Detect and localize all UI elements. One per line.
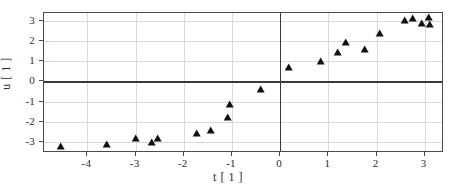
y-axis-tick-label: 2 xyxy=(13,34,35,46)
data-point-marker xyxy=(193,129,201,136)
x-axis-tick-label: -2 xyxy=(171,157,195,169)
y-axis-tick-label: 3 xyxy=(13,14,35,26)
data-point-marker xyxy=(225,100,233,107)
data-point-marker xyxy=(207,126,215,133)
x-axis-tick-label: 3 xyxy=(412,157,436,169)
data-point-marker xyxy=(285,63,293,70)
x-axis-tick xyxy=(279,152,280,156)
x-axis-tick-label: 0 xyxy=(267,157,291,169)
x-axis-tick xyxy=(231,152,232,156)
data-point-marker xyxy=(408,14,416,21)
data-point-marker xyxy=(131,135,139,142)
data-point-marker xyxy=(257,86,265,93)
x-axis-tick-label: -3 xyxy=(123,157,147,169)
gridline-horizontal xyxy=(44,41,442,42)
data-point-marker xyxy=(376,29,384,36)
gridline-horizontal xyxy=(44,61,442,62)
y-axis-tick xyxy=(39,80,43,81)
y-axis-tick-label: -1 xyxy=(13,95,35,107)
y-axis-tick-label: 1 xyxy=(13,54,35,66)
data-point-marker xyxy=(317,58,325,65)
x-axis-tick-label: 2 xyxy=(364,157,388,169)
x-axis-tick-label: 1 xyxy=(315,157,339,169)
y-axis-tick-label: -3 xyxy=(13,135,35,147)
y-axis-tick xyxy=(39,60,43,61)
y-axis-label: u [ 1 ] xyxy=(0,44,14,104)
x-axis-tick xyxy=(376,152,377,156)
gridline-horizontal xyxy=(44,122,442,123)
x-axis-tick xyxy=(327,152,328,156)
data-point-marker xyxy=(361,45,369,52)
plot-area xyxy=(43,12,443,152)
x-axis-tick xyxy=(183,152,184,156)
zero-axis-vertical xyxy=(280,13,281,151)
x-axis-tick xyxy=(86,152,87,156)
x-axis-tick xyxy=(135,152,136,156)
x-axis-tick-label: -4 xyxy=(74,157,98,169)
x-axis-label: t [ 1 ] xyxy=(0,170,456,185)
data-point-marker xyxy=(153,135,161,142)
gridline-horizontal xyxy=(44,21,442,22)
y-axis-tick xyxy=(39,121,43,122)
y-axis-tick xyxy=(39,141,43,142)
x-axis-tick-label: -1 xyxy=(219,157,243,169)
scatter-plot-figure: -4-3-2-101233210-1-2-3 t [ 1 ] u [ 1 ] xyxy=(0,0,456,193)
y-axis-tick xyxy=(39,20,43,21)
y-axis-tick-label: -2 xyxy=(13,115,35,127)
x-axis-tick xyxy=(424,152,425,156)
data-point-marker xyxy=(224,114,232,121)
zero-axis-horizontal xyxy=(44,81,442,82)
data-point-marker xyxy=(57,143,65,150)
data-point-marker xyxy=(425,20,433,27)
y-axis-tick xyxy=(39,40,43,41)
y-axis-tick xyxy=(39,101,43,102)
y-axis-tick-label: 0 xyxy=(13,74,35,86)
data-point-marker xyxy=(102,141,110,148)
data-point-marker xyxy=(334,48,342,55)
gridline-horizontal xyxy=(44,102,442,103)
data-point-marker xyxy=(342,38,350,45)
